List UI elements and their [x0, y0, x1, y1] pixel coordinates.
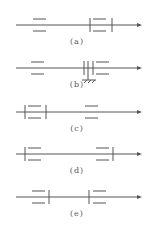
- row-c-diagram: [16, 105, 142, 119]
- label-b: (b): [0, 80, 154, 89]
- row-e-diagram: [16, 190, 142, 204]
- label-c: (c): [0, 124, 154, 133]
- label-d: (d): [0, 166, 154, 175]
- label-a: (a): [0, 37, 154, 46]
- row-d-diagram: [16, 147, 142, 161]
- row-a-diagram: [16, 18, 142, 32]
- diagram-canvas: [0, 0, 154, 234]
- label-e: (e): [0, 209, 154, 218]
